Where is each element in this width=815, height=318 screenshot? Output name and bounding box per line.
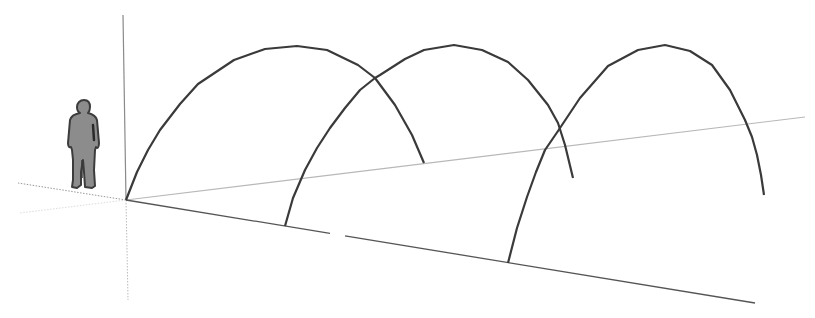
arches[interactable]: [126, 45, 764, 263]
scene-canvas[interactable]: [0, 0, 815, 318]
scale-figure[interactable]: [68, 100, 99, 188]
arch-2[interactable]: [285, 45, 573, 226]
green-axis: [126, 117, 805, 200]
blue-axis-negative: [126, 200, 128, 300]
model-viewport[interactable]: [0, 0, 815, 318]
green-axis-negative: [20, 200, 126, 213]
arch-1[interactable]: [126, 46, 424, 200]
arch-3[interactable]: [508, 45, 764, 263]
axes: [18, 15, 805, 303]
person-icon: [68, 100, 99, 188]
red-axis: [126, 200, 330, 233]
figure-arm-shadow: [93, 125, 94, 140]
red-axis: [345, 236, 755, 303]
blue-axis: [123, 15, 126, 200]
